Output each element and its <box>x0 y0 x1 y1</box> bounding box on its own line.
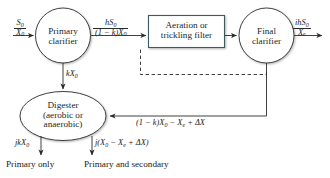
flow-digested-combined-sub2: e <box>123 142 126 148</box>
flow-influent-numerator-sub: 0 <box>21 22 24 28</box>
flow-influent-denominator-sub: 0 <box>21 31 24 37</box>
flow-digested-combined-part1: j(X <box>95 138 105 147</box>
flow-digested-combined-part3: + ΔX) <box>126 138 149 147</box>
flow-final-effluent-denominator-sub: e <box>303 31 306 37</box>
flow-digested-combined-sub1: 0 <box>105 142 108 148</box>
flow-primary-effluent-denominator-sub: 0 <box>123 31 126 37</box>
node-label-aeration: Aeration or trickling filter <box>149 21 224 40</box>
flow-primary-sludge-text: kX <box>66 69 75 78</box>
diagram-canvas: Primary clarifier Aeration or trickling … <box>0 0 330 178</box>
flow-primary-effluent-numerator-sub: 0 <box>113 22 116 28</box>
flow-secondary-sludge-sub1: 0 <box>164 122 167 128</box>
node-label-aeration-line2: trickling filter <box>149 31 224 41</box>
flow-label-digested-combined: j(X0 − Xe + ΔX) <box>95 139 149 148</box>
flow-digested-primary-sub: 0 <box>26 142 29 148</box>
caption-primary-only: Primary only <box>6 160 54 170</box>
flow-final-effluent-numerator: ihS <box>295 18 306 27</box>
node-label-final-clarifier-line2: clarifier <box>240 37 293 47</box>
flow-label-secondary-sludge: (1 − k)X0 − Xe + ΔX <box>136 119 205 128</box>
flow-digested-primary-text: jkX <box>15 138 26 147</box>
flow-secondary-sludge-part1: (1 − k)X <box>136 118 164 127</box>
flow-label-primary-sludge: kX0 <box>66 70 78 79</box>
node-label-final-clarifier: Final clarifier <box>240 27 293 46</box>
flow-label-primary-effluent: hS0 (1 − k)X0 <box>93 19 128 38</box>
flow-label-influent: S0 X0 <box>14 19 26 38</box>
flow-secondary-sludge-part2: − X <box>167 118 182 127</box>
flow-label-digested-primary: jkX0 <box>15 139 29 148</box>
caption-primary-and-secondary: Primary and secondary <box>84 160 169 170</box>
flow-secondary-sludge-sub2: e <box>182 122 185 128</box>
node-label-primary-clarifier-line2: clarifier <box>36 37 90 47</box>
connector-waste-secondary-sludge <box>110 63 267 116</box>
node-label-digester: Digester (aerobic or anaerobic) <box>24 101 102 130</box>
flow-final-effluent-numerator-sub: 0 <box>306 22 309 28</box>
flow-primary-effluent-denominator: (1 − k)X <box>95 28 123 37</box>
node-label-primary-clarifier: Primary clarifier <box>36 27 90 46</box>
node-label-digester-line3: anaerobic) <box>24 120 102 130</box>
flow-digested-combined-part2: − X <box>108 138 123 147</box>
flow-label-final-effluent: ihS0 Xe <box>293 19 311 38</box>
flow-secondary-sludge-part3: + ΔX <box>185 118 205 127</box>
flow-primary-sludge-sub: 0 <box>75 73 78 79</box>
